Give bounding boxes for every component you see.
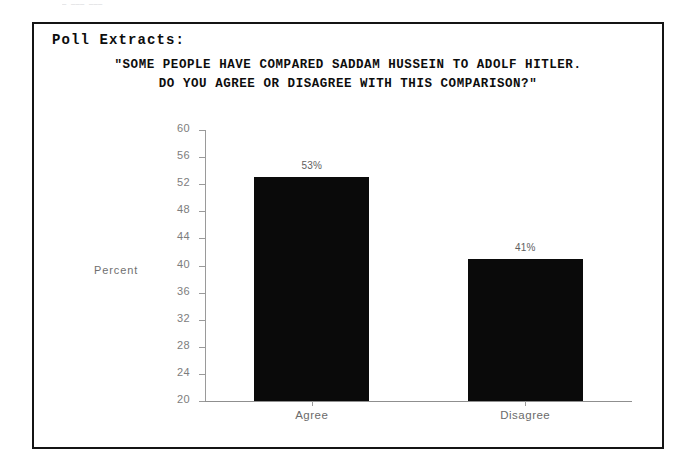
x-axis-category-label: Disagree [500,409,550,421]
scan-top-bleed-text: — ——— ——— [62,0,272,9]
bar-chart: Percent 6056524844403632282420 53%Agree4… [34,24,666,451]
bar-value-label: 41% [515,242,536,253]
y-axis-tick-label: 60 [177,122,190,134]
bar-group: 53%Agree [205,130,419,402]
y-axis-tick-label: 52 [177,176,190,188]
y-axis-tick-label: 56 [177,149,190,161]
document-frame: Poll Extracts: "SOME PEOPLE HAVE COMPARE… [32,22,664,449]
y-axis-tick-label: 48 [177,203,190,215]
y-axis-tick-label: 20 [177,393,190,405]
bar-group: 41%Disagree [419,130,633,402]
x-axis-tick [312,401,313,406]
y-axis-tick-label: 44 [177,230,190,242]
x-axis-tick [525,401,526,406]
plot-region: 6056524844403632282420 53%Agree41%Disagr… [205,130,632,402]
bar-agree[interactable]: 53% [254,177,369,401]
bar-value-label: 53% [301,160,322,171]
y-axis-tick-label: 28 [177,339,190,351]
y-axis-tick-label: 32 [177,312,190,324]
y-axis-tick-label: 24 [177,366,190,378]
bar-disagree[interactable]: 41% [468,259,583,401]
y-axis-title: Percent [94,264,138,276]
x-axis-category-label: Agree [295,409,328,421]
y-axis-tick-label: 36 [177,285,190,297]
y-axis-tick-label: 40 [177,258,190,270]
